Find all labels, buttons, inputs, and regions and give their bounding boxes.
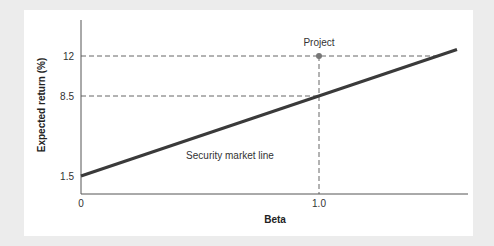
chart-canvas: 12 8.5 1.5 0 1.0 Beta Expected return (%…	[0, 0, 494, 246]
x-axis-title: Beta	[264, 214, 286, 225]
sml-label: Security market line	[186, 150, 274, 161]
project-label: Project	[303, 37, 334, 48]
x-tick-0: 0	[78, 198, 84, 209]
y-axis-title: Expected return (%)	[36, 58, 47, 152]
y-tick-8-5: 8.5	[60, 91, 74, 102]
x-tick-1-0: 1.0	[312, 198, 326, 209]
y-tick-12: 12	[63, 51, 75, 62]
project-point	[316, 53, 322, 59]
y-tick-1-5: 1.5	[60, 171, 74, 182]
